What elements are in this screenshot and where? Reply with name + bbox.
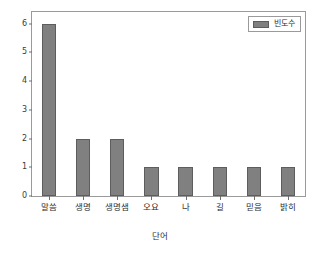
x-tick-label: 밝히 (280, 203, 296, 212)
x-tick-mark (220, 196, 221, 200)
legend: 빈도수 (248, 16, 301, 32)
bar (144, 167, 158, 196)
bar (110, 139, 124, 197)
y-tick-label: 5 (22, 48, 27, 56)
legend-label-frequency: 빈도수 (274, 20, 295, 28)
x-tick-label: 나 (182, 203, 190, 212)
x-tick-mark (83, 196, 84, 200)
x-tick-mark (288, 196, 289, 200)
plot-area: 0123456 말씀생명생명샘오요나길믿음밝히 빈도수 (31, 11, 306, 197)
bar-series-frequency (32, 12, 305, 196)
x-tick-mark (151, 196, 152, 200)
x-tick-label: 말씀 (41, 203, 57, 212)
x-tick-mark (186, 196, 187, 200)
x-tick-mark (254, 196, 255, 200)
bar (281, 167, 295, 196)
x-tick-label: 길 (216, 203, 224, 212)
bar (42, 24, 56, 197)
legend-swatch-frequency (253, 21, 269, 28)
y-tick-label: 3 (22, 106, 27, 114)
x-tick-mark (49, 196, 50, 200)
x-tick-label: 오요 (143, 203, 159, 212)
bar-chart-figure: 0123456 말씀생명생명샘오요나길믿음밝히 빈도수 단어 (0, 0, 320, 259)
y-tick-label: 0 (22, 192, 27, 200)
bar (76, 139, 90, 197)
x-axis-title: 단어 (0, 232, 320, 241)
y-tick-label: 4 (22, 77, 27, 85)
x-tick-mark (117, 196, 118, 200)
x-tick-label: 믿음 (246, 203, 262, 212)
bar (213, 167, 227, 196)
y-tick-label: 6 (22, 20, 27, 28)
x-tick-label: 생명샘 (105, 203, 129, 212)
bar (178, 167, 192, 196)
bar (247, 167, 261, 196)
x-tick-label: 생명 (75, 203, 91, 212)
y-tick-label: 1 (22, 163, 27, 171)
y-tick-label: 2 (22, 135, 27, 143)
